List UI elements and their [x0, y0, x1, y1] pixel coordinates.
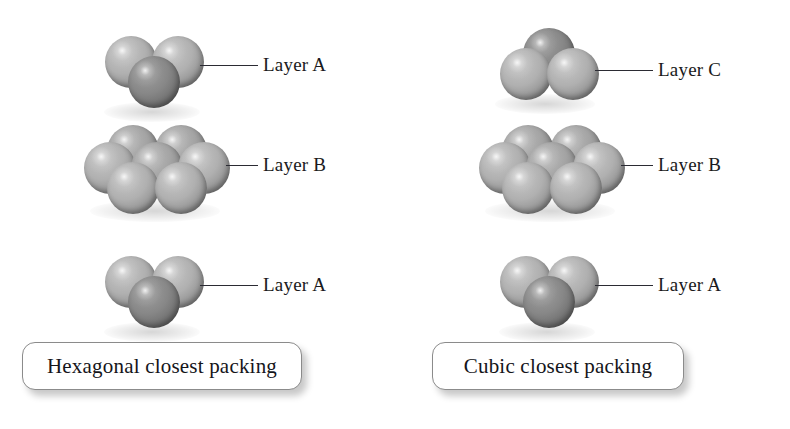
- layer-label-hcp-bottom: Layer A: [263, 274, 326, 296]
- layer-group-hcp-bottom: Layer A: [0, 238, 395, 348]
- sphere-front-right: [550, 162, 602, 214]
- sphere-cluster-hcp-bottom: [0, 238, 230, 348]
- caption-box-hexagonal: Hexagonal closest packing: [22, 342, 302, 390]
- layer-label-ccp-bottom: Layer A: [658, 274, 721, 296]
- sphere-cluster-hcp-middle: [0, 120, 230, 230]
- layer-group-hcp-middle: Layer B: [0, 120, 395, 230]
- leader-line-ccp-top: [595, 70, 653, 71]
- sphere-front-right: [155, 162, 207, 214]
- sphere-cluster-ccp-middle: [395, 120, 625, 230]
- layer-group-hcp-top: Layer A: [0, 18, 395, 128]
- layer-group-ccp-top: Layer C: [395, 18, 790, 128]
- sphere-front-center: [128, 56, 180, 108]
- layer-label-ccp-top: Layer C: [658, 59, 721, 81]
- layer-group-ccp-middle: Layer B: [395, 120, 790, 230]
- leader-line-hcp-top: [200, 65, 258, 66]
- hexagonal-packing-column: Layer A Layer B: [0, 0, 395, 429]
- sphere-front-left: [107, 162, 159, 214]
- caption-text-cubic: Cubic closest packing: [464, 354, 653, 379]
- caption-text-hexagonal: Hexagonal closest packing: [47, 354, 277, 379]
- layer-label-hcp-middle: Layer B: [263, 154, 326, 176]
- sphere-front-right: [547, 48, 599, 100]
- sphere-front-left: [500, 48, 552, 100]
- layer-label-ccp-middle: Layer B: [658, 154, 721, 176]
- leader-line-hcp-middle: [226, 165, 258, 166]
- sphere-cluster-ccp-bottom: [395, 238, 625, 348]
- caption-box-cubic: Cubic closest packing: [432, 342, 684, 390]
- layer-group-ccp-bottom: Layer A: [395, 238, 790, 348]
- closest-packing-diagram: Layer A Layer B: [0, 0, 790, 429]
- sphere-front-center: [523, 276, 575, 328]
- layer-label-hcp-top: Layer A: [263, 54, 326, 76]
- sphere-front-left: [502, 162, 554, 214]
- leader-line-ccp-middle: [621, 165, 653, 166]
- cubic-packing-column: Layer C Layer B: [395, 0, 790, 429]
- sphere-cluster-hcp-top: [0, 18, 230, 128]
- sphere-front-center: [128, 276, 180, 328]
- sphere-cluster-ccp-top: [395, 18, 625, 128]
- leader-line-hcp-bottom: [200, 285, 258, 286]
- leader-line-ccp-bottom: [595, 285, 653, 286]
